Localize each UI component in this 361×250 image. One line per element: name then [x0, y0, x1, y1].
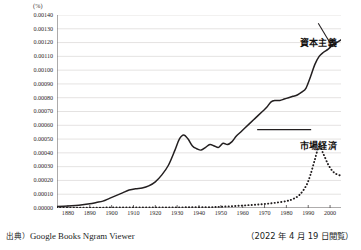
- y-axis-unit-label: (%): [33, 2, 43, 9]
- y-axis-tick-label: 0.00100: [7, 67, 53, 73]
- y-axis-tick-label: 0.00050: [7, 136, 53, 142]
- gridlines: [57, 15, 341, 208]
- y-axis-tick-label: 0.00020: [7, 177, 53, 183]
- source-note: 出典）Google Books Ngram Viewer: [6, 231, 135, 242]
- y-axis-tick-label: 0.00010: [7, 191, 53, 197]
- plot-area: [57, 15, 341, 208]
- x-axis-tick-label: 2000: [315, 210, 345, 217]
- x-axis-tick-labels: (年) 188018901900191019201930194019501960…: [57, 210, 361, 224]
- y-axis-tick-labels: 0.001400.001300.001200.001100.001000.000…: [5, 15, 53, 208]
- source-label: 出典）: [6, 232, 30, 241]
- y-axis-tick-label: 0.00070: [7, 108, 53, 114]
- y-axis-tick-label: 0.00030: [7, 163, 53, 169]
- chart-figure: (%) 0.001400.001300.001200.001100.001000…: [0, 0, 361, 250]
- y-axis-tick-label: 0.00140: [7, 12, 53, 18]
- y-axis-tick-label: 0.00110: [7, 53, 53, 59]
- y-axis-tick-label: 0.00080: [7, 95, 53, 101]
- y-axis-tick-label: 0.00130: [7, 26, 53, 32]
- annotation-capitalism: 資本主義: [300, 38, 337, 48]
- source-value: Google Books Ngram Viewer: [30, 231, 135, 241]
- series-line-capitalism: [57, 40, 341, 207]
- series-line-market-economy: [57, 147, 341, 208]
- y-axis-tick-label: 0.00000: [7, 205, 53, 211]
- access-date-note: （2022 年 4 月 19 日閲覧）: [246, 231, 353, 242]
- y-axis-tick-label: 0.00090: [7, 81, 53, 87]
- chart-canvas: [57, 15, 341, 208]
- y-axis-tick-label: 0.00060: [7, 122, 53, 128]
- annotation-market-economy: 市場経済: [300, 141, 337, 151]
- y-axis-tick-label: 0.00120: [7, 39, 53, 45]
- figure-footer: 出典）Google Books Ngram Viewer （2022 年 4 月…: [0, 231, 361, 250]
- y-axis-tick-label: 0.00040: [7, 150, 53, 156]
